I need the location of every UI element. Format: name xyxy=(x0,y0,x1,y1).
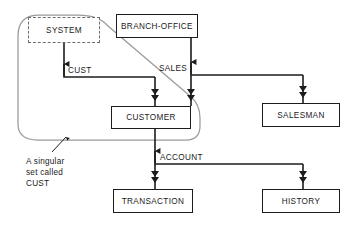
singular-set-annotation: A singular set called CUST xyxy=(26,156,64,189)
entity-box-branch-office[interactable]: BRANCH-OFFICE xyxy=(116,14,198,38)
member-marker-salesman-a xyxy=(299,86,307,92)
entity-label-salesman: SALESMAN xyxy=(277,111,324,120)
entity-box-system[interactable]: SYSTEM xyxy=(28,17,100,43)
annotation-leader-line xyxy=(52,137,66,152)
entity-label-branch-office: BRANCH-OFFICE xyxy=(121,22,193,31)
entity-box-history[interactable]: HISTORY xyxy=(262,189,340,213)
entity-box-transaction[interactable]: TRANSACTION xyxy=(113,189,193,213)
entity-label-customer: CUSTOMER xyxy=(126,113,176,122)
entity-box-customer[interactable]: CUSTOMER xyxy=(111,106,191,129)
set-label-sales: SALES xyxy=(159,64,187,73)
set-label-account: ACCOUNT xyxy=(160,153,203,162)
entity-label-transaction: TRANSACTION xyxy=(122,197,185,206)
member-marker-cust-b xyxy=(151,95,159,101)
member-marker-transaction-b xyxy=(151,177,159,183)
diagram-canvas: SYSTEM BRANCH-OFFICE CUSTOMER SALESMAN T… xyxy=(0,0,356,229)
entity-box-salesman[interactable]: SALESMAN xyxy=(262,103,340,127)
connector-branchoffice-sales xyxy=(191,38,303,75)
entity-label-system: SYSTEM xyxy=(46,26,82,35)
member-marker-cust-a xyxy=(151,89,159,95)
member-marker-transaction-a xyxy=(151,171,159,177)
set-label-cust: CUST xyxy=(68,66,92,75)
member-marker-history-a xyxy=(299,171,307,177)
member-marker-salesman-b xyxy=(299,92,307,98)
member-marker-history-b xyxy=(299,177,307,183)
entity-label-history: HISTORY xyxy=(282,197,321,206)
